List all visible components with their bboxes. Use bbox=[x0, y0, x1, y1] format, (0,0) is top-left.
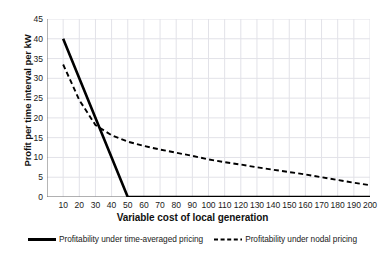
legend-swatch-solid bbox=[28, 235, 56, 244]
x-tick-label: 200 bbox=[358, 200, 382, 210]
legend-entry-1[interactable]: Profitability under time-averaged pricin… bbox=[28, 234, 203, 244]
y-tick-label: 20 bbox=[25, 114, 43, 122]
chart-figure: Profit per time interval per kW 05101520… bbox=[0, 0, 385, 253]
y-tick-label: 35 bbox=[25, 55, 43, 63]
x-axis-title: Variable cost of local generation bbox=[0, 212, 385, 223]
legend-swatch-dashed bbox=[214, 235, 242, 244]
chart-canvas bbox=[47, 19, 370, 197]
y-tick-label: 40 bbox=[25, 35, 43, 43]
y-tick-label: 5 bbox=[25, 173, 43, 181]
y-tick-label: 0 bbox=[25, 193, 43, 201]
plot-area bbox=[47, 19, 370, 197]
legend-label: Profitability under nodal pricing bbox=[245, 234, 357, 244]
chart-legend: Profitability under time-averaged pricin… bbox=[0, 231, 385, 247]
y-tick-label: 15 bbox=[25, 134, 43, 142]
legend-label: Profitability under time-averaged pricin… bbox=[59, 234, 203, 244]
y-tick-label: 25 bbox=[25, 94, 43, 102]
y-tick-label: 45 bbox=[25, 15, 43, 23]
y-tick-label: 30 bbox=[25, 74, 43, 82]
legend-entry-2[interactable]: Profitability under nodal pricing bbox=[214, 234, 357, 244]
series-line-2 bbox=[63, 64, 370, 185]
y-axis-tick-labels: 051015202530354045 bbox=[24, 19, 43, 197]
y-tick-label: 10 bbox=[25, 153, 43, 161]
grid-lines bbox=[47, 19, 370, 197]
